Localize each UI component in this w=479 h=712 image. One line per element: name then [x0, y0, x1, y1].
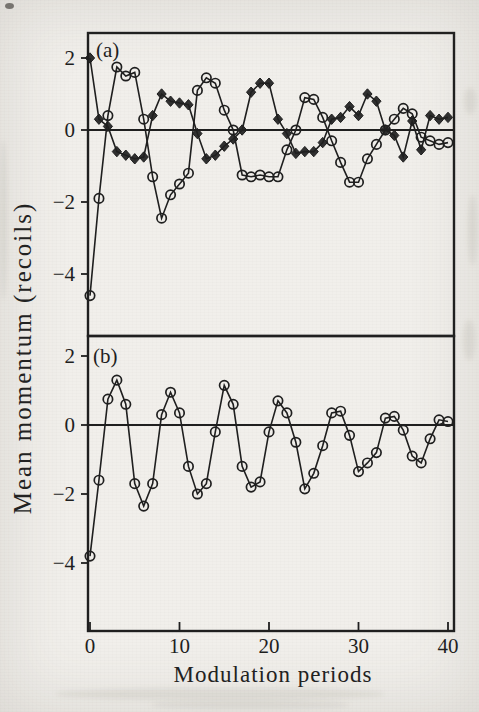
marker-diamond	[157, 89, 166, 99]
x-tick-label: 20	[259, 634, 280, 658]
y-axis-label: Mean momentum (recoils)	[9, 202, 37, 515]
marker-diamond	[363, 89, 372, 99]
panel-a-frame	[88, 33, 454, 336]
y-tick-label-b: 0	[65, 413, 76, 437]
marker-diamond	[434, 114, 443, 124]
marker-diamond	[85, 53, 94, 63]
marker-diamond	[175, 98, 184, 108]
y-tick-label-a: −2	[53, 190, 75, 214]
marker-diamond	[399, 152, 408, 162]
marker-diamond	[273, 114, 282, 124]
scanned-figure-page: 20−2−420−2−4010203040 Mean momentum (rec…	[0, 0, 479, 712]
y-tick-label-b: −4	[53, 551, 76, 575]
y-tick-label-a: 0	[65, 118, 76, 142]
marker-diamond	[264, 78, 273, 88]
marker-diamond	[390, 130, 399, 140]
marker-diamond	[417, 145, 426, 155]
marker-diamond	[130, 154, 139, 164]
panel-b-label: (b)	[93, 344, 118, 369]
marker-diamond	[148, 110, 157, 120]
x-tick-label: 40	[438, 634, 459, 658]
y-tick-label-a: −4	[53, 262, 76, 286]
marker-diamond	[372, 96, 381, 106]
marker-diamond	[121, 150, 130, 160]
marker-diamond	[426, 110, 435, 120]
marker-diamond	[112, 146, 121, 156]
marker-diamond	[184, 100, 193, 110]
marker-diamond	[202, 154, 211, 164]
x-tick-label: 0	[85, 634, 96, 658]
marker-diamond	[300, 146, 309, 156]
marker-diamond	[443, 112, 452, 122]
panel-b-frame	[88, 336, 454, 631]
y-tick-label-a: 2	[65, 46, 76, 70]
marker-diamond	[139, 152, 148, 162]
y-tick-label-b: 2	[65, 344, 76, 368]
marker-diamond	[166, 96, 175, 106]
x-tick-label: 30	[348, 634, 369, 658]
y-tick-label-b: −2	[53, 482, 75, 506]
x-tick-label: 10	[169, 634, 190, 658]
panel-a-label: (a)	[96, 38, 119, 63]
marker-diamond	[291, 148, 300, 158]
marker-diamond	[327, 114, 336, 124]
x-axis-label: Modulation periods	[174, 662, 373, 688]
momentum-chart: 20−2−420−2−4010203040	[0, 0, 479, 712]
marker-diamond	[94, 114, 103, 124]
series-line-circle-series-b	[90, 380, 448, 556]
series-line-diamond-series-a	[90, 58, 448, 159]
